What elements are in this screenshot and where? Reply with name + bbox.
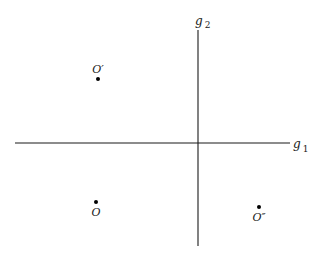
point-label-o: O bbox=[91, 206, 100, 219]
point-label-o-prime: O′ bbox=[92, 63, 104, 76]
point-o bbox=[94, 200, 98, 204]
point-o-double-prime bbox=[257, 205, 261, 209]
point-label-o-double-prime: O″ bbox=[252, 211, 266, 224]
axis-label-g2: g2 bbox=[195, 14, 210, 30]
axis-label-g1: g1 bbox=[293, 137, 308, 154]
diagram-canvas: g2 g1 O′ O O″ bbox=[0, 0, 314, 258]
point-o-prime bbox=[96, 77, 100, 81]
